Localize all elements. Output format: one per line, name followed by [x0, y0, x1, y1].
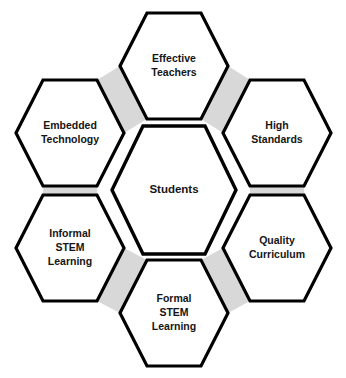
- label-line: Technology: [41, 133, 99, 145]
- label-line: High: [265, 119, 288, 131]
- label-line: Standards: [251, 133, 303, 145]
- label-line: Quality: [259, 234, 295, 246]
- label-line: Curriculum: [249, 248, 305, 260]
- hexagon-label-effective-teachers: EffectiveTeachers: [151, 52, 196, 78]
- label-line: STEM: [159, 306, 188, 318]
- label-line: Learning: [48, 255, 92, 267]
- diagram-canvas: EffectiveTeachersHighStandardsQualityCur…: [0, 0, 346, 378]
- label-line: Formal: [156, 292, 191, 304]
- label-line: Embedded: [43, 119, 97, 131]
- hexagon-students[interactable]: Students: [112, 126, 236, 254]
- label-line: Informal: [49, 227, 91, 239]
- hexagon-diagram: EffectiveTeachersHighStandardsQualityCur…: [0, 0, 346, 378]
- hexagon-label-students: Students: [149, 183, 198, 195]
- hexagon-label-embedded-technology: EmbeddedTechnology: [41, 119, 99, 145]
- label-line: Learning: [152, 320, 196, 332]
- label-line: Students: [149, 183, 198, 195]
- label-line: Effective: [152, 52, 196, 64]
- label-line: STEM: [55, 241, 84, 253]
- label-line: Teachers: [151, 66, 196, 78]
